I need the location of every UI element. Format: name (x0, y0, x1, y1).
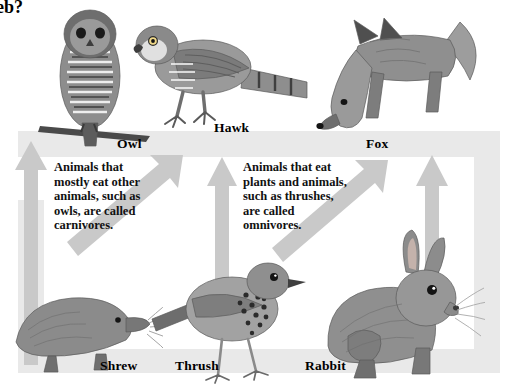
info-text-carnivores: Animals that mostly eat other animals, s… (54, 160, 174, 233)
label-hawk: Hawk (214, 120, 249, 136)
label-fox: Fox (366, 136, 388, 152)
label-thrush: Thrush (175, 358, 219, 374)
food-web-diagram: eb? (0, 0, 505, 390)
shrew-illustration (8, 272, 163, 390)
thrush-illustration (148, 255, 308, 390)
label-shrew: Shrew (100, 358, 138, 374)
hawk-illustration (125, 12, 310, 137)
label-owl: Owl (117, 136, 142, 152)
info-text-omnivores: Animals that eat plants and animals, suc… (243, 160, 378, 233)
label-rabbit: Rabbit (305, 358, 346, 374)
fox-illustration (310, 6, 485, 146)
